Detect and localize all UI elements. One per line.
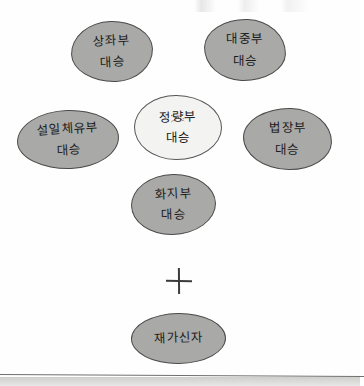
node-dharmaguptaka-title: 법장부 [269,122,306,135]
node-mahasamghika-title: 대중부 [227,33,264,46]
node-sarvastivada-title: 설일체유부 [36,120,99,137]
node-mahisasaka-title: 화지부 [154,186,192,201]
node-sammatiya-title: 정량부 [159,110,197,124]
node-laity[interactable]: 재가신자 [131,313,227,365]
scan-noise-top [0,0,360,12]
node-mahasamghika[interactable]: 대중부 대승 [203,18,287,82]
node-dharmaguptaka[interactable]: 법장부 대승 [242,107,332,171]
node-mahisasaka-subtitle: 대승 [161,209,186,222]
node-dharmaguptaka-subtitle: 대승 [275,143,300,155]
node-sammatiya[interactable]: 정량부 대승 [134,95,223,161]
node-mahisasaka[interactable]: 화지부 대승 [130,173,216,235]
node-sarvastivada-subtitle: 대승 [56,143,81,157]
node-sammatiya-subtitle: 대승 [165,132,190,145]
node-mahasamghika-subtitle: 대승 [232,54,257,67]
page-edge [0,373,360,386]
plus-sign-icon [166,268,192,294]
node-sthavira[interactable]: 상좌부 대승 [70,20,154,83]
node-sthavira-title: 상좌부 [93,33,131,48]
page-edge-band [0,377,360,386]
node-sarvastivada[interactable]: 설일체유부 대승 [16,108,120,170]
node-sthavira-subtitle: 대승 [100,55,125,69]
node-laity-title: 재가신자 [153,331,203,345]
plus-vertical-stroke [178,268,180,294]
